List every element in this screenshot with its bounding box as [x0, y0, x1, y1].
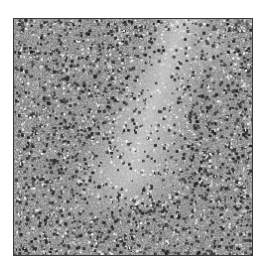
micrograph-image	[14, 19, 252, 255]
micrograph-frame	[13, 18, 253, 256]
